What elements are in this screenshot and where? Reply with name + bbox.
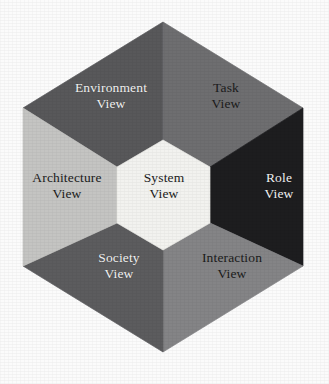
hexagon-svg: [0, 0, 329, 384]
hexagon-diagram: Environment View Task View Role View Int…: [0, 0, 329, 384]
